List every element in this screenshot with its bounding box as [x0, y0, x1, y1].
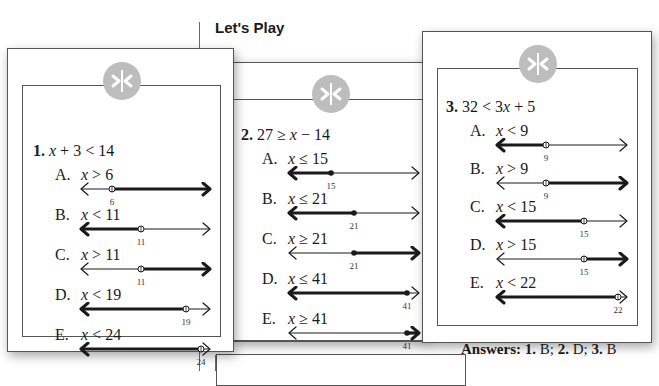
point-label: 15 [580, 267, 590, 277]
point-label: 21 [350, 261, 359, 271]
number-line: 22 [494, 290, 630, 316]
point-label: 19 [182, 317, 192, 327]
option-inequality: x < 19 [81, 286, 121, 303]
greater-less-icon [312, 75, 350, 113]
option-letter: B. [262, 190, 288, 208]
answers-label: Answers: [461, 341, 521, 357]
option-inequality: x ≤ 21 [288, 190, 328, 207]
problem-2-number: 2. [241, 126, 253, 143]
number-line: 21 [286, 206, 422, 232]
greater-less-icon [519, 45, 557, 83]
number-line: 15 [286, 166, 422, 192]
option-inequality: x < 15 [496, 198, 536, 215]
option-letter: D. [470, 236, 496, 254]
option-inequality: x < 11 [81, 206, 121, 223]
problem-1-number: 1. [33, 142, 45, 159]
answer-3-number: 3. [591, 341, 602, 357]
greater-less-icon [103, 62, 141, 100]
option-inequality: x ≥ 21 [288, 230, 328, 247]
answer-3-value: B [606, 341, 616, 357]
number-line: 41 [286, 326, 422, 352]
point-label: 9 [544, 191, 549, 201]
option-inequality: x < 9 [496, 122, 528, 139]
number-line: 11 [78, 262, 213, 288]
point-label: 41 [403, 301, 412, 311]
answer-1-number: 1. [525, 341, 536, 357]
point-label: 15 [327, 181, 337, 191]
closed-point [404, 290, 410, 296]
problem-1-equation: x + 3 < 14 [49, 142, 114, 159]
problem-3-number: 3. [446, 98, 458, 115]
option-inequality: x < 22 [496, 274, 536, 291]
option-letter: A. [262, 150, 288, 168]
option-inequality: x > 6 [81, 166, 113, 183]
option-letter: A. [470, 122, 496, 140]
problem-2-statement: 2. 27 ≥ x − 14 [241, 126, 330, 144]
closed-point [351, 210, 357, 216]
option-letter: E. [470, 274, 496, 292]
option-inequality: x < 24 [81, 326, 121, 343]
point-label: 11 [137, 237, 146, 247]
problem-3-equation: 32 < 3x + 5 [462, 98, 535, 115]
problem-card-1-inner [22, 85, 221, 337]
option-letter: C. [262, 230, 288, 248]
option-letter: C. [470, 198, 496, 216]
number-line: 11 [78, 222, 213, 248]
number-line: 6 [78, 182, 213, 208]
point-label: 15 [580, 229, 590, 239]
closed-point [328, 170, 334, 176]
answer-2-number: 2. [558, 341, 569, 357]
option-letter: E. [262, 310, 288, 328]
number-line: 41 [286, 286, 422, 312]
problem-3-statement: 3. 32 < 3x + 5 [446, 98, 535, 116]
number-line: 19 [78, 302, 213, 328]
answer-2-value: D; [573, 341, 588, 357]
number-line: 21 [286, 246, 422, 272]
answer-key: Answers: 1. B; 2. D; 3. B [461, 341, 616, 358]
option-letter: B. [470, 160, 496, 178]
point-label: 11 [137, 277, 146, 287]
point-label: 21 [350, 221, 359, 231]
point-label: 41 [403, 341, 412, 351]
option-inequality: x > 11 [81, 246, 121, 263]
section-title: Let's Play [215, 19, 284, 36]
option-inequality: x ≤ 41 [288, 270, 328, 287]
answer-1-value: B; [540, 341, 554, 357]
point-label: 22 [614, 305, 623, 315]
problem-1-statement: 1. x + 3 < 14 [33, 142, 114, 160]
point-label: 24 [197, 357, 207, 367]
bottom-card-frame [216, 354, 466, 386]
option-inequality: x > 15 [496, 236, 536, 253]
number-line: 24 [78, 342, 213, 368]
point-label: 9 [544, 153, 549, 163]
option-inequality: x > 9 [496, 160, 528, 177]
option-inequality: x ≥ 41 [288, 310, 328, 327]
option-letter: D. [262, 270, 288, 288]
problem-2-equation: 27 ≥ x − 14 [257, 126, 330, 143]
closed-point [404, 330, 410, 336]
option-inequality: x ≤ 15 [288, 150, 328, 167]
closed-point [351, 250, 357, 256]
